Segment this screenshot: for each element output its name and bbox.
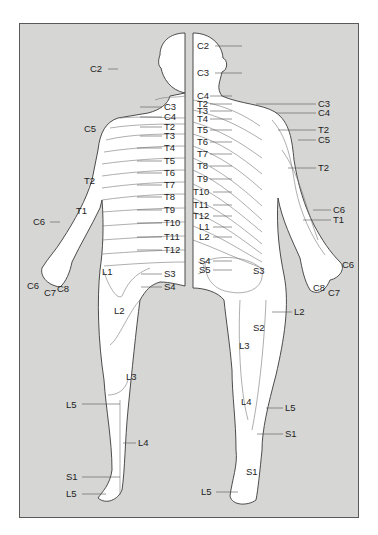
dermatome-label: T5 (197, 124, 208, 135)
dermatome-label: T11 (164, 231, 180, 242)
dermatome-label: T9 (197, 173, 208, 184)
dermatome-label: T12 (193, 210, 209, 221)
dermatome-label: S1 (285, 428, 297, 439)
dermatome-label: C5 (84, 123, 96, 134)
dermatome-label: C3 (197, 67, 209, 78)
dermatome-label: L4 (241, 396, 252, 407)
dermatome-label: T12 (164, 244, 180, 255)
dermatome-label: T10 (193, 186, 209, 197)
dermatome-label: S5 (199, 264, 211, 275)
dermatome-label: L5 (201, 486, 212, 497)
dermatome-label: T2 (84, 175, 95, 186)
dermatome-label: T2 (318, 162, 329, 173)
dermatome-label: T9 (164, 204, 175, 215)
dermatome-label: S3 (164, 268, 176, 279)
dermatome-label: L4 (138, 437, 149, 448)
dermatome-label: T1 (76, 205, 87, 216)
dermatome-label: L3 (126, 371, 137, 382)
dermatome-label: S4 (164, 281, 176, 292)
dermatome-label: T7 (197, 148, 208, 159)
dermatome-label: C6 (27, 280, 39, 291)
dermatome-label: T3 (164, 130, 175, 141)
dermatome-label: C7 (44, 287, 56, 298)
dermatome-label: L5 (66, 399, 77, 410)
dermatome-label: L5 (285, 402, 296, 413)
dermatome-label: C2 (90, 63, 102, 74)
dermatome-label: S2 (253, 322, 265, 333)
dermatome-label: T6 (197, 136, 208, 147)
dermatome-label: T8 (164, 191, 175, 202)
dermatome-label: C5 (318, 134, 330, 145)
dermatome-label: C6 (342, 259, 354, 270)
dermatome-label: L2 (199, 231, 210, 242)
dermatome-label: L1 (102, 266, 113, 277)
dermatome-label: T10 (164, 217, 180, 228)
dermatome-diagram: C2 C3 C4 C5 T2 T3 T4 T5 T6 T7 T8 T9 T10 … (0, 0, 378, 535)
dermatome-label: T4 (197, 113, 208, 124)
dermatome-label: T8 (197, 160, 208, 171)
dermatome-label: C4 (318, 107, 330, 118)
dermatome-label: S3 (253, 265, 265, 276)
dermatome-label: L3 (239, 340, 250, 351)
dermatome-label: C8 (313, 282, 325, 293)
dermatome-label: T7 (164, 179, 175, 190)
dermatome-label: C8 (57, 283, 69, 294)
dermatome-label: L2 (114, 305, 125, 316)
dermatome-label: T1 (333, 214, 344, 225)
dermatome-label: S1 (66, 471, 78, 482)
dermatome-label: T4 (164, 142, 175, 153)
dermatome-label: T5 (164, 155, 175, 166)
dermatome-label: L2 (294, 306, 305, 317)
dermatome-label: C6 (33, 216, 45, 227)
dermatome-label: S1 (246, 466, 258, 477)
dermatome-label: C7 (328, 287, 340, 298)
dermatome-label: C2 (197, 40, 209, 51)
dermatome-label: L5 (66, 488, 77, 499)
dermatome-label: T6 (164, 167, 175, 178)
dermatome-label: T11 (193, 199, 209, 210)
